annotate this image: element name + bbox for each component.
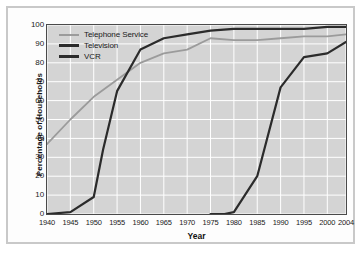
x-axis-title: Year [46, 231, 347, 241]
y-axis-tick-label: 40 [10, 134, 44, 142]
y-axis-tick-label: 90 [10, 40, 44, 48]
y-axis-tick-label: 70 [10, 78, 44, 86]
legend-swatch-telephone-service [59, 34, 79, 36]
y-axis-tick-label: 10 [10, 191, 44, 199]
legend-swatch-television [59, 44, 79, 47]
y-axis-tick-label: 20 [10, 172, 44, 180]
legend-item-telephone-service: Telephone Service [59, 29, 179, 40]
y-axis-tick-labels: 0102030405060708090100 [6, 24, 44, 215]
chart-figure: Percentage of Households 010203040506070… [0, 0, 363, 256]
series-line-vcr [211, 42, 346, 214]
y-axis-tick-label: 50 [10, 116, 44, 124]
y-axis-tick-label: 100 [10, 21, 44, 29]
legend-item-television: Television [59, 40, 179, 51]
plot-area: Telephone Service Television VCR [46, 24, 347, 215]
y-axis-tick-label: 80 [10, 59, 44, 67]
y-axis-tick-label: 30 [10, 153, 44, 161]
legend-swatch-vcr [59, 55, 79, 58]
legend-label-telephone-service: Telephone Service [84, 30, 148, 39]
chart-legend: Telephone Service Television VCR [59, 29, 179, 62]
x-axis-tick-labels: 1940194519501955196019651970197519801985… [46, 218, 347, 230]
legend-label-vcr: VCR [84, 52, 101, 61]
legend-label-television: Television [84, 41, 118, 50]
y-axis-tick-label: 60 [10, 97, 44, 105]
legend-item-vcr: VCR [59, 51, 179, 62]
x-axis-tick-label: 2004 [331, 218, 361, 228]
y-axis-tick-label: 0 [10, 210, 44, 218]
